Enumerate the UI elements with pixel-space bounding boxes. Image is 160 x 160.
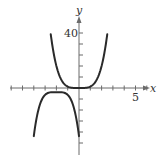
chart: y x 40 5	[0, 0, 160, 160]
y-tick-label-40: 40	[64, 27, 78, 40]
lower-curve	[34, 92, 79, 136]
x-axis-label: x	[150, 82, 157, 95]
y-axis-label: y	[75, 4, 83, 17]
x-tick-label-5: 5	[132, 91, 139, 104]
y-axis-arrow-icon	[77, 16, 82, 23]
